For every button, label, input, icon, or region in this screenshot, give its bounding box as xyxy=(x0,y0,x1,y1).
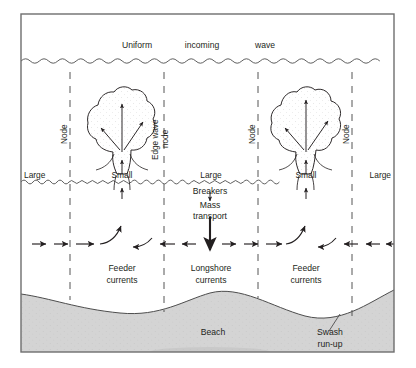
label-small-left: Small xyxy=(112,170,133,180)
label-swash-line1: Swash xyxy=(317,327,343,337)
label-feeder-right-line2: currents xyxy=(290,275,321,285)
label-breakers: Breakers xyxy=(193,186,227,196)
label-beach: Beach xyxy=(201,327,226,337)
label-large-center: Large xyxy=(200,170,222,180)
label-node-1: Node xyxy=(60,124,69,144)
label-mass: Mass xyxy=(200,200,221,210)
label-node-3: Node xyxy=(342,124,351,144)
label-longshore-line1: Longshore xyxy=(191,263,232,273)
label-large-left: Large xyxy=(24,170,46,180)
label-large-right: Large xyxy=(370,170,392,180)
nearshore-circulation-figure: Uniform incoming wave Node Edge wave nod… xyxy=(0,0,416,368)
label-longshore-line2: currents xyxy=(195,275,226,285)
label-small-right: Small xyxy=(296,170,317,180)
label-uniform: Uniform xyxy=(122,40,152,50)
label-incoming: incoming xyxy=(185,40,220,50)
label-wave: wave xyxy=(254,40,275,50)
label-feeder-left-line1: Feeder xyxy=(108,263,135,273)
label-transport: transport xyxy=(193,211,228,221)
label-node-2: Node xyxy=(248,124,257,144)
label-swash-line2: run-up xyxy=(318,339,343,349)
label-feeder-right-line1: Feeder xyxy=(292,263,319,273)
label-feeder-left-line2: currents xyxy=(106,275,137,285)
label-edge-wave-node-line2: node xyxy=(161,129,170,148)
label-edge-wave-node-line1: Edge wave xyxy=(151,119,160,160)
